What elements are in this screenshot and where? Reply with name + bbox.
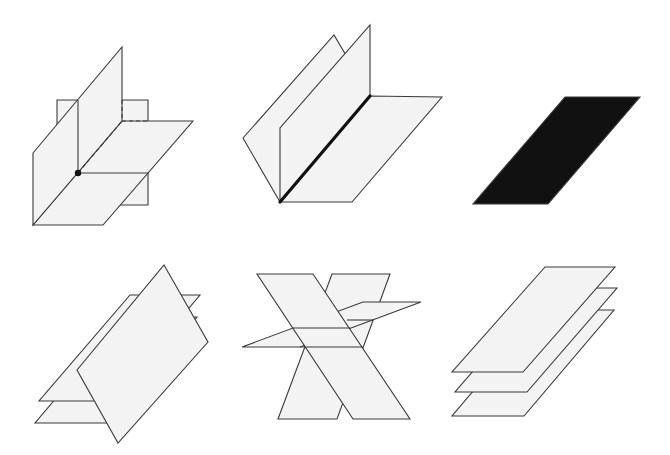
- intersection-point: [75, 170, 81, 176]
- planes-diagram: [0, 0, 670, 455]
